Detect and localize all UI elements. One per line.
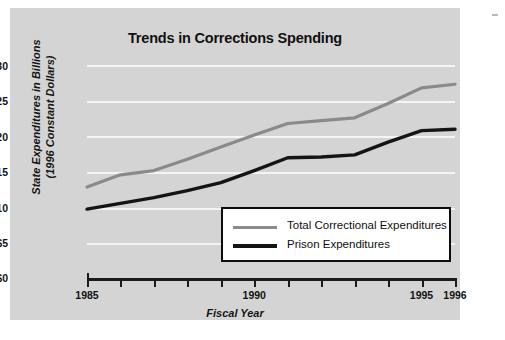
x-axis-line [87, 278, 457, 281]
line-total-correctional-expenditures [87, 84, 455, 187]
y-tick-label-15: $15 [0, 166, 8, 178]
y-tick-label-5: $5 [0, 237, 8, 249]
chart-legend: Total Correctional Expenditures Prison E… [221, 207, 451, 262]
x-axis-tick-1985 [87, 281, 89, 287]
chart-screenshot: Trends in Corrections Spending State Exp… [0, 0, 505, 340]
y-tick-label-10: $10 [0, 202, 8, 214]
x-axis-tick-1993 [355, 281, 357, 287]
x-tick-label-1985: 1985 [65, 289, 109, 301]
x-axis-tick-1987 [154, 281, 156, 287]
x-axis-tick-1994 [388, 281, 390, 287]
legend-label-total: Total Correctional Expenditures [287, 219, 447, 231]
x-axis-tick-1996 [455, 281, 457, 287]
x-axis-tick-1991 [288, 281, 290, 287]
x-axis-origin-cap [87, 273, 89, 281]
figure-panel: Trends in Corrections Spending State Exp… [10, 8, 460, 320]
line-prison-expenditures [87, 129, 455, 209]
legend-swatch-prison [233, 244, 277, 248]
x-tick-label-1996: 1996 [433, 289, 477, 301]
x-axis-tick-1992 [321, 281, 323, 287]
x-axis-tick-1988 [187, 281, 189, 287]
y-tick-label-30: $30 [0, 60, 8, 72]
y-tick-label-25: $25 [0, 95, 8, 107]
y-tick-label-20: $20 [0, 131, 8, 143]
corner-mark [492, 14, 498, 16]
y-tick-label-0: $0 [0, 272, 8, 284]
legend-label-prison: Prison Expenditures [287, 238, 390, 250]
legend-swatch-total [233, 226, 277, 229]
x-axis-tick-1989 [221, 281, 223, 287]
x-tick-label-1990: 1990 [232, 289, 276, 301]
x-axis-tick-1986 [120, 281, 122, 287]
x-axis-tick-1990 [254, 281, 256, 287]
x-axis-title: Fiscal Year [10, 307, 460, 319]
x-axis-tick-1995 [422, 281, 424, 287]
